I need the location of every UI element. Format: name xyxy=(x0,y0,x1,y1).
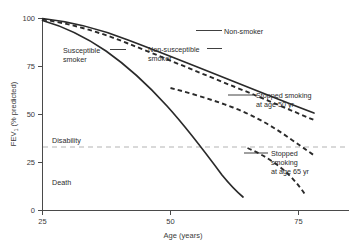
fev1-decline-chart: 100 75 50 25 0 25 50 75 Age (years) FEV1… xyxy=(0,0,361,247)
y-tick-label-25: 25 xyxy=(27,158,35,167)
annotation-stopped-50-line1: Stopped smoking xyxy=(256,91,312,100)
annotation-stopped-65-line3: at age 65 yr xyxy=(271,167,310,176)
y-axis-title-tail: (% predicted) xyxy=(9,81,18,128)
y-tick-label-100: 100 xyxy=(22,14,35,23)
x-tick-label-75: 75 xyxy=(294,217,302,226)
zone-label-death: Death xyxy=(52,178,71,187)
x-tick-label-50: 50 xyxy=(166,217,174,226)
annotation-non-susceptible-smoker-line2: smoker xyxy=(148,54,172,63)
y-tick-label-75: 75 xyxy=(27,62,35,71)
annotation-stopped-65-line2: smoking xyxy=(271,158,298,167)
annotation-non-susceptible-smoker-line1: Non-susceptible xyxy=(148,45,200,54)
annotation-susceptible-smoker-line1: Susceptible xyxy=(63,46,100,55)
annotation-susceptible-smoker-line2: smoker xyxy=(63,55,87,64)
y-axis-title-main: FEV xyxy=(9,132,18,147)
chart-canvas: 100 75 50 25 0 25 50 75 Age (years) FEV1… xyxy=(0,0,361,247)
y-axis-ticks: 100 75 50 25 0 xyxy=(22,14,42,215)
y-tick-label-0: 0 xyxy=(31,206,35,215)
annotation-non-smoker: Non-smoker xyxy=(224,27,264,36)
annotation-stopped-50-line2: at age 50 yr xyxy=(256,100,295,109)
y-axis-title-group: FEV1 (% predicted) xyxy=(9,81,19,146)
x-tick-label-25: 25 xyxy=(38,217,46,226)
annotation-stopped-65-line1: Stopped xyxy=(271,149,298,158)
x-axis-title: Age (years) xyxy=(164,231,203,240)
y-tick-label-50: 50 xyxy=(27,110,35,119)
zone-label-disability: Disability xyxy=(52,136,81,145)
y-axis-title: FEV1 (% predicted) xyxy=(9,81,19,146)
x-axis-ticks: 25 50 75 xyxy=(38,211,302,227)
